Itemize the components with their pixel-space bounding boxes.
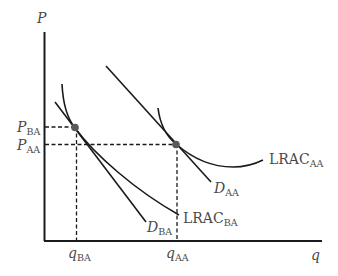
d-ba-label: DBA [146,219,172,237]
d-aa-label: DAA [213,180,239,198]
q-aa-label: qAA [166,245,189,263]
demand-aa-curve [106,66,211,182]
lrac-ba-label: LRACBA [183,210,238,228]
x-axis-label: q [311,247,320,263]
lrac-aa-label: LRACAA [269,151,324,169]
lrac-aa-curve [158,108,263,167]
q-ba-label: qBA [68,245,91,263]
p-aa-label: PAA [16,137,40,155]
equilibrium-point-ba [71,124,79,132]
y-axis-label: P [36,10,47,26]
lrac-ba-curve [62,84,179,215]
equilibrium-point-aa [172,141,180,149]
demand-ba-curve [55,102,146,222]
p-ba-label: PBA [16,119,40,137]
cost-demand-diagram: P q PBA PAA qBA qAA DAA DBA L [0,0,338,276]
